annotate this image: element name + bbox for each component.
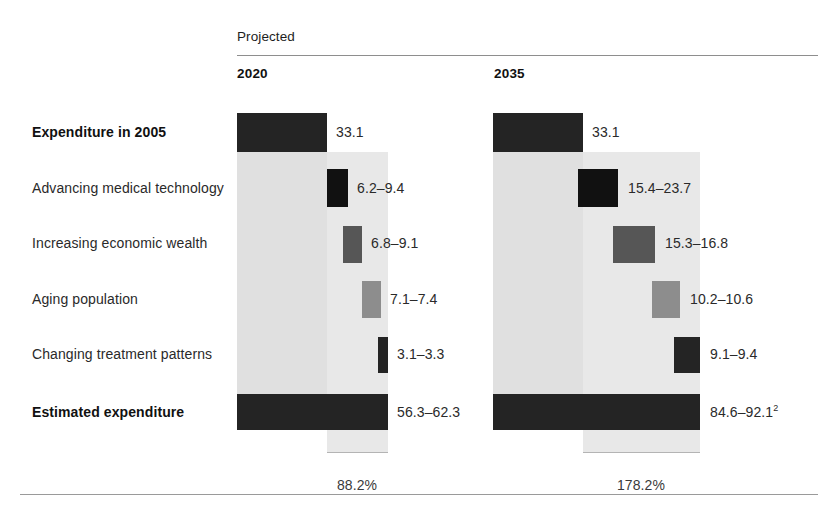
growth-rule-2035 xyxy=(583,452,700,453)
row-label-estimated-expenditure: Estimated expenditure xyxy=(32,404,184,420)
value-2035-aging-population: 10.2–10.6 xyxy=(690,291,753,307)
row-label-expenditure-2005: Expenditure in 2005 xyxy=(32,124,166,140)
value-2035-changing-treatment-patterns: 9.1–9.4 xyxy=(710,346,757,362)
growth-percent-2035: 178.2% xyxy=(617,477,665,493)
row-label-changing-treatment-patterns: Changing treatment patterns xyxy=(32,346,212,362)
row-label-advancing-medical-technology: Advancing medical technology xyxy=(32,180,224,196)
pedestal-2020-base xyxy=(237,152,327,394)
value-2020-total-text: 56.3–62.3 xyxy=(397,404,460,420)
value-2035-advancing-medical-technology: 15.4–23.7 xyxy=(628,180,691,196)
bar-2020-aging-population xyxy=(362,281,381,318)
bar-2020-increasing-economic-wealth xyxy=(343,226,362,263)
bar-2020-estimated-expenditure xyxy=(237,394,388,430)
footnote-marker-2: 2 xyxy=(773,403,778,413)
bar-2035-expenditure-2005 xyxy=(493,113,583,152)
bar-2035-increasing-economic-wealth xyxy=(613,226,655,263)
row-label-increasing-economic-wealth: Increasing economic wealth xyxy=(32,235,207,251)
bar-2035-advancing-medical-technology xyxy=(578,169,618,207)
value-2035-increasing-economic-wealth: 15.3–16.8 xyxy=(665,235,728,251)
value-2035-expenditure-2005: 33.1 xyxy=(592,124,620,140)
value-2035-estimated-expenditure: 84.6–92.12 xyxy=(710,404,778,420)
header-rule xyxy=(237,55,818,56)
value-2020-changing-treatment-patterns: 3.1–3.3 xyxy=(397,346,444,362)
group-header-2020: 2020 xyxy=(237,66,268,81)
group-header-2035: 2035 xyxy=(494,66,525,81)
chart-canvas: Projected 2020 2035 Expenditure in 2005 … xyxy=(0,0,826,510)
value-2020-estimated-expenditure: 56.3–62.3 xyxy=(397,404,460,420)
growth-rule-2020 xyxy=(327,452,388,453)
value-2020-aging-population: 7.1–7.4 xyxy=(390,291,437,307)
growth-percent-2020: 88.2% xyxy=(337,477,377,493)
footer-rule xyxy=(20,494,818,495)
value-2020-increasing-economic-wealth: 6.8–9.1 xyxy=(371,235,418,251)
value-2020-expenditure-2005: 33.1 xyxy=(336,124,364,140)
bar-2020-expenditure-2005 xyxy=(237,113,327,152)
value-2035-total-text: 84.6–92.1 xyxy=(710,404,773,420)
bar-2035-aging-population xyxy=(652,281,680,318)
bar-2020-changing-treatment-patterns xyxy=(378,337,388,373)
bar-2035-estimated-expenditure xyxy=(493,394,700,430)
row-label-aging-population: Aging population xyxy=(32,291,138,307)
bar-2020-advancing-medical-technology xyxy=(327,169,348,207)
bar-2035-changing-treatment-patterns xyxy=(674,337,700,373)
value-2020-advancing-medical-technology: 6.2–9.4 xyxy=(357,180,404,196)
pedestal-2035-base xyxy=(493,152,583,394)
projected-label: Projected xyxy=(237,29,295,44)
